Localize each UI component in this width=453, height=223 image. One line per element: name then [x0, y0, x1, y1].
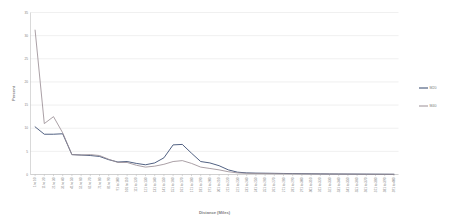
x-axis-tick-label: 41 to 50	[70, 177, 74, 188]
x-axis-tick-label: 271 to 280	[282, 177, 286, 192]
x-axis-tick-label: 31 to 40	[61, 177, 65, 188]
x-axis-tick-label: 11 to 20	[42, 177, 46, 188]
chart-container: 051015202530351 to 1011 to 2021 to 3031 …	[0, 0, 453, 223]
x-axis-tick-label: 381 to 390	[383, 177, 387, 192]
legend-label-m20: M20	[430, 86, 437, 90]
x-axis-tick-label: 301 to 310	[309, 177, 313, 192]
x-axis-tick-label: 51 to 60	[79, 177, 83, 188]
x-axis-tick-label: 121 to 130	[144, 177, 148, 192]
x-axis-tick-label: 261 to 270	[272, 177, 276, 192]
y-axis-tick-label: 5	[26, 150, 28, 154]
x-axis-tick-label: 251 to 260	[263, 177, 267, 192]
x-axis-tick-label: 361 to 370	[364, 177, 368, 192]
x-axis-tick-label: 171 to 180	[190, 177, 194, 192]
x-axis-tick-label: 331 to 340	[337, 177, 341, 192]
x-axis-tick-label: 341 to 350	[346, 177, 350, 192]
x-axis-tick-label: 181 to 190	[199, 177, 203, 192]
x-axis-tick-label: 281 to 290	[291, 177, 295, 192]
y-axis-tick-label: 15	[24, 103, 28, 107]
x-axis-tick-label: 1 to 10	[33, 177, 37, 187]
series-line-m20	[35, 127, 394, 174]
y-axis-tick-label: 20	[24, 80, 28, 84]
x-axis-tick-label: 81 to 90	[107, 177, 111, 188]
x-axis-tick-label: 71 to 80	[98, 177, 102, 188]
y-axis-tick-label: 35	[24, 11, 28, 15]
legend-label-m40: M40	[430, 104, 437, 108]
x-axis-title: Distance (Miles)	[199, 210, 231, 215]
x-axis-tick-label: 231 to 240	[245, 177, 249, 192]
line-chart: 051015202530351 to 1011 to 2021 to 3031 …	[0, 0, 453, 223]
x-axis-tick-label: 131 to 140	[153, 177, 157, 192]
x-axis-tick-label: 201 to 210	[217, 177, 221, 192]
series-line-m40	[35, 30, 394, 174]
x-axis-tick-label: 151 to 160	[171, 177, 175, 192]
x-axis-tick-label: 311 to 320	[318, 177, 322, 192]
x-axis-tick-label: 91 to 100	[116, 177, 120, 190]
y-axis-title: Percent	[11, 85, 16, 101]
y-axis-tick-label: 10	[24, 126, 28, 130]
x-axis-tick-label: 141 to 150	[162, 177, 166, 192]
x-axis-tick-label: 61 to 70	[88, 177, 92, 188]
x-axis-tick-label: 101 to 110	[125, 177, 129, 192]
x-axis-tick-label: 111 to 120	[134, 177, 138, 191]
x-axis-tick-label: 161 to 170	[180, 177, 184, 192]
y-axis-tick-label: 30	[24, 34, 28, 38]
x-axis-tick-label: 291 to 300	[300, 177, 304, 192]
x-axis-tick-label: 321 to 330	[328, 177, 332, 192]
x-axis-tick-label: 391 to 400	[392, 177, 396, 192]
x-axis-tick-label: 241 to 250	[254, 177, 258, 192]
y-axis-tick-label: 0	[26, 173, 28, 177]
x-axis-tick-label: 211 to 220	[226, 177, 230, 192]
x-axis-tick-label: 221 to 230	[236, 177, 240, 192]
x-axis-tick-label: 351 to 360	[355, 177, 359, 192]
x-axis-tick-label: 371 to 380	[374, 177, 378, 192]
x-axis-tick-label: 21 to 30	[52, 177, 56, 188]
y-axis-tick-label: 25	[24, 57, 28, 61]
x-axis-tick-label: 191 to 200	[208, 177, 212, 192]
